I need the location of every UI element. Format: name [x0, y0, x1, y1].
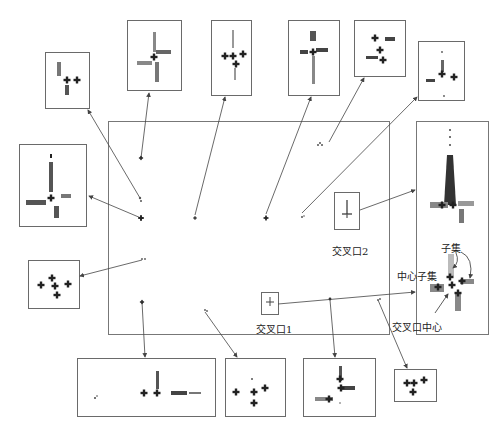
intersection-2-label: 交叉口2: [332, 243, 368, 258]
intersection-1-marker-box: [261, 292, 279, 315]
detail-panel: [416, 121, 489, 335]
inset-box-i: [77, 358, 216, 417]
inset-box-d: [288, 20, 340, 96]
intersection-center-label: 交叉口中心: [392, 319, 442, 334]
inset-box-l: [394, 369, 437, 402]
center-subset-label: 中心子集: [397, 268, 437, 283]
inset-box-k: [303, 358, 376, 417]
intersection-1-label: 交叉口1: [256, 321, 292, 336]
subset-label: 子集: [441, 240, 461, 255]
intersection-2-marker-box: [334, 192, 360, 230]
inset-box-h: [28, 260, 80, 309]
inset-box-c: [211, 20, 252, 96]
inset-box-b: [127, 20, 182, 91]
inset-box-a: [45, 52, 90, 109]
inset-box-e: [354, 20, 406, 77]
inset-box-f: [418, 41, 465, 101]
inset-box-j: [225, 358, 286, 417]
inset-box-g: [19, 144, 87, 227]
